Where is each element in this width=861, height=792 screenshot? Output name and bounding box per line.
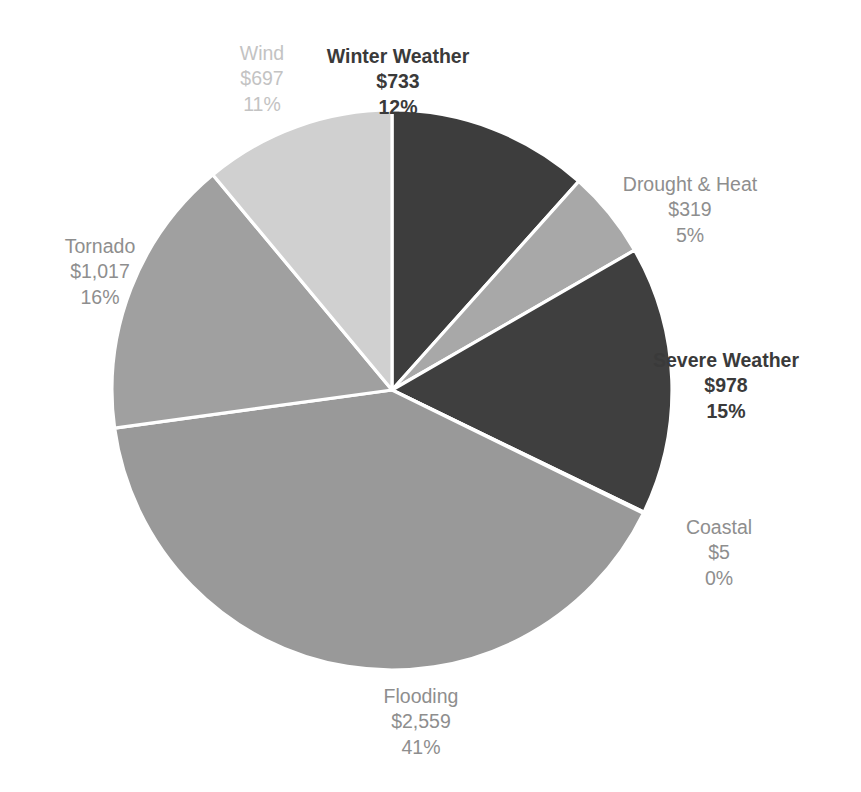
slice-label-percent: 5% (575, 223, 805, 248)
slice-label-value: $978 (611, 373, 841, 398)
slice-label-name: Coastal (629, 515, 809, 540)
slice-label-percent: 0% (629, 566, 809, 591)
slice-label-percent: 41% (306, 735, 536, 760)
slice-label-value: $2,559 (306, 709, 536, 734)
slice-label-value: $319 (575, 197, 805, 222)
slice-label-percent: 11% (172, 92, 352, 117)
slice-label-name: Flooding (306, 684, 536, 709)
pie-chart: Winter Weather $733 12% Drought & Heat $… (0, 0, 861, 792)
slice-label-percent: 15% (611, 399, 841, 424)
slice-label-name: Drought & Heat (575, 172, 805, 197)
slice-label-flooding: Flooding $2,559 41% (306, 684, 536, 760)
slice-label-value: $5 (629, 540, 809, 565)
slice-label-name: Tornado (0, 234, 200, 259)
slice-label-tornado: Tornado $1,017 16% (0, 234, 200, 310)
slice-label-coastal: Coastal $5 0% (629, 515, 809, 591)
slice-label-percent: 16% (0, 285, 200, 310)
slice-label-wind: Wind $697 11% (172, 41, 352, 117)
slice-label-name: Wind (172, 41, 352, 66)
slice-label-value: $697 (172, 66, 352, 91)
slice-label-value: $1,017 (0, 259, 200, 284)
slice-label-name: Severe Weather (611, 348, 841, 373)
slice-label-drought-heat: Drought & Heat $319 5% (575, 172, 805, 248)
slice-label-severe-weather: Severe Weather $978 15% (611, 348, 841, 424)
